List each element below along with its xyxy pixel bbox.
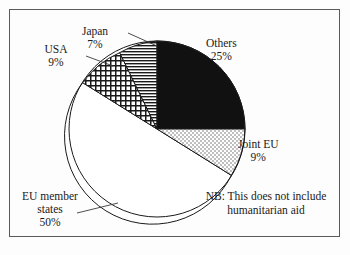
pie-label-others: Others 25%	[206, 37, 237, 63]
pie-chart-figure: Others 25% Japan 7% USA 9% Joint EU 9% E…	[0, 0, 350, 255]
chart-note-line2: humanitarian aid	[196, 203, 336, 217]
chart-note: NB: This does not include humanitarian a…	[196, 189, 336, 217]
pie-label-joint-eu-value: 9%	[238, 151, 279, 164]
pie-label-eu-member-states: EU member states 50%	[10, 190, 90, 229]
pie-label-eu-member-states-line1: EU member	[22, 190, 78, 202]
pie-label-joint-eu-name: Joint EU	[238, 138, 279, 150]
pie-label-joint-eu: Joint EU 9%	[238, 138, 279, 164]
pie-label-eu-member-states-value: 50%	[10, 216, 90, 229]
pie-label-japan-name: Japan	[82, 25, 108, 37]
pie-label-usa-value: 9%	[27, 56, 85, 69]
chart-note-line1: NB: This does not include	[206, 190, 327, 202]
pie-label-others-name: Others	[206, 37, 237, 49]
pie-label-others-value: 25%	[206, 50, 237, 63]
pie-label-eu-member-states-line2: states	[10, 203, 90, 216]
pie-label-usa: USA 9%	[27, 43, 85, 69]
pie-label-usa-name: USA	[44, 43, 67, 55]
